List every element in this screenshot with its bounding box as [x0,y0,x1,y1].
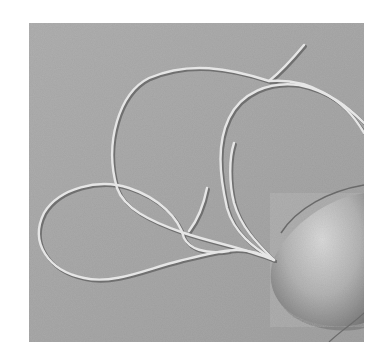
micrograph-illustration [29,23,364,342]
micrograph-image [29,23,364,342]
